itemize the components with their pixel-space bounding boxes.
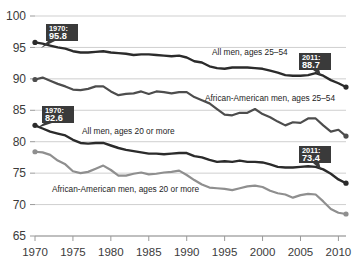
series-start-marker-3 xyxy=(32,149,37,154)
y-tick-label-80: 80 xyxy=(13,135,27,149)
x-axis-ticks: 197019751980198519901995200020052010 xyxy=(22,236,351,258)
x-tick-label-1970: 1970 xyxy=(22,246,48,258)
x-tick-label-1990: 1990 xyxy=(174,246,200,258)
x-tick-label-1975: 1975 xyxy=(60,246,86,258)
series-start-marker-0 xyxy=(32,40,37,45)
series-end-marker-3 xyxy=(343,211,348,216)
label-all-men-2554: All men, ages 25–54 xyxy=(212,47,288,57)
label-aa-men-2554: African-American men, ages 25–54 xyxy=(205,93,335,103)
series-text-labels: All men, ages 25–54African-American men,… xyxy=(52,47,335,194)
callout-value-all-men-2554-end: 88.7 xyxy=(302,60,320,70)
y-tick-label-70: 70 xyxy=(13,198,27,212)
series-start-marker-1 xyxy=(32,77,37,82)
callout-all-men-20plus-start: 1970:82.6 xyxy=(37,106,74,128)
x-tick-label-2010: 2010 xyxy=(326,246,352,258)
callout-value-all-men-20plus-start: 82.6 xyxy=(45,113,63,123)
y-tick-label-90: 90 xyxy=(13,72,27,86)
x-tick-label-2000: 2000 xyxy=(250,246,276,258)
x-tick-label-1985: 1985 xyxy=(136,246,162,258)
x-tick-label-2005: 2005 xyxy=(288,246,314,258)
callout-value-all-men-20plus-end: 73.4 xyxy=(302,153,321,163)
label-all-men-20plus: All men, ages 20 or more xyxy=(82,126,175,136)
series-end-marker-1 xyxy=(343,133,348,138)
y-axis-ticks: 65707580859095100 xyxy=(6,9,35,243)
y-tick-label-75: 75 xyxy=(13,166,27,180)
y-tick-label-95: 95 xyxy=(13,41,27,55)
y-tick-label-65: 65 xyxy=(13,229,27,243)
chart-container: 65707580859095100 1970197519801985199019… xyxy=(0,0,353,271)
line-chart: 65707580859095100 1970197519801985199019… xyxy=(0,0,353,271)
label-aa-men-20plus: African-American men, ages 20 or more xyxy=(52,184,199,194)
callout-pointer-all-men-20plus-start xyxy=(37,123,52,128)
series-end-marker-2 xyxy=(343,181,348,186)
y-tick-label-85: 85 xyxy=(13,103,27,117)
x-tick-label-1980: 1980 xyxy=(98,246,124,258)
series-start-marker-2 xyxy=(32,123,37,128)
x-tick-label-1995: 1995 xyxy=(212,246,238,258)
callout-value-all-men-2554-start: 95.8 xyxy=(49,31,67,41)
series-end-marker-0 xyxy=(343,84,348,89)
y-tick-label-100: 100 xyxy=(6,9,26,23)
callout-all-men-2554-start: 1970:95.8 xyxy=(41,24,78,48)
